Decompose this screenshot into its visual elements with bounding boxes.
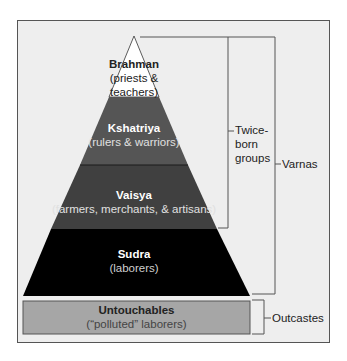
varnas-label: Varnas bbox=[282, 157, 318, 171]
twice-born-line2: born bbox=[235, 137, 270, 151]
kshatriya-title: Kshatriya bbox=[74, 121, 194, 135]
brahman-label: Brahman (priests & teachers) bbox=[94, 57, 174, 99]
twice-born-line3: groups bbox=[235, 151, 270, 165]
brahman-title: Brahman bbox=[94, 57, 174, 71]
vaisya-desc: (farmers, merchants, & artisans) bbox=[44, 202, 224, 216]
sudra-desc: (laborers) bbox=[84, 261, 184, 275]
untouchables-desc: (“polluted” laborers) bbox=[64, 317, 209, 331]
brahman-desc-line1: (priests & bbox=[94, 71, 174, 85]
kshatriya-desc: (rulers & warriors) bbox=[74, 135, 194, 149]
kshatriya-label: Kshatriya (rulers & warriors) bbox=[74, 121, 194, 149]
untouchables-title: Untouchables bbox=[64, 303, 209, 317]
outcastes-label: Outcastes bbox=[272, 311, 324, 325]
twice-born-line1: Twice- bbox=[235, 123, 270, 137]
untouchables-label: Untouchables (“polluted” laborers) bbox=[64, 303, 209, 331]
vaisya-label: Vaisya (farmers, merchants, & artisans) bbox=[44, 188, 224, 216]
vaisya-title: Vaisya bbox=[44, 188, 224, 202]
outcastes-bracket bbox=[252, 300, 271, 334]
sudra-label: Sudra (laborers) bbox=[84, 247, 184, 275]
varnas-bracket bbox=[228, 37, 281, 294]
brahman-desc-line2: teachers) bbox=[94, 85, 174, 99]
twice-born-label: Twice- born groups bbox=[235, 123, 270, 165]
sudra-title: Sudra bbox=[84, 247, 184, 261]
